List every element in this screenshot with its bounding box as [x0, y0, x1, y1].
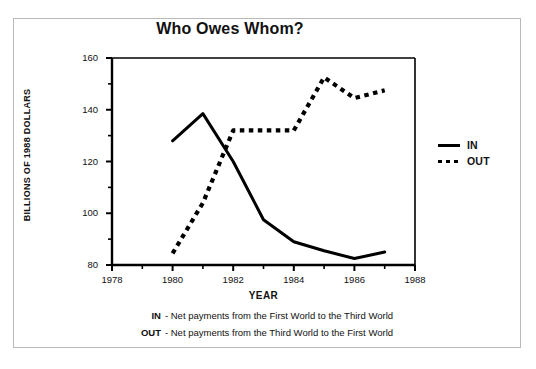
footnote-key: IN [127, 310, 161, 321]
axes-group [106, 58, 415, 271]
dotted-line-icon [437, 155, 461, 167]
footnote-row: OUT- Net payments from the Third World t… [60, 327, 460, 344]
y-tick-label: 100 [68, 207, 98, 218]
legend-item-out[interactable]: OUT [437, 153, 517, 169]
y-tick-label: 120 [68, 156, 98, 167]
y-tick-label: 80 [68, 259, 98, 270]
solid-line-icon [437, 139, 461, 151]
legend-label: IN [467, 139, 478, 151]
footnote-text: - Net payments from the First World to t… [165, 310, 393, 321]
x-tick-label: 1978 [92, 274, 132, 285]
series-line-out [173, 77, 385, 253]
chart-page: Who Owes Whom? BILLIONS OF 1988 DOLLARS … [0, 0, 536, 369]
footnote-text: - Net payments from the Third World to t… [165, 327, 393, 338]
footnote-key: OUT [127, 327, 161, 338]
legend-label: OUT [467, 155, 490, 167]
x-tick-label: 1986 [334, 274, 374, 285]
x-tick-label: 1984 [274, 274, 314, 285]
chart-footnotes: IN- Net payments from the First World to… [60, 310, 460, 344]
chart-legend: INOUT [437, 137, 517, 169]
x-tick-label: 1988 [395, 274, 435, 285]
x-tick-label: 1980 [153, 274, 193, 285]
footnote-row: IN- Net payments from the First World to… [60, 310, 460, 327]
series-line-in [173, 114, 385, 259]
y-tick-label: 160 [68, 52, 98, 63]
y-tick-label: 140 [68, 104, 98, 115]
legend-item-in[interactable]: IN [437, 137, 517, 153]
x-tick-label: 1982 [213, 274, 253, 285]
series-group [173, 77, 385, 258]
